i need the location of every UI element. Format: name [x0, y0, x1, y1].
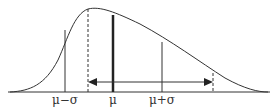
distribution-plot: [0, 0, 274, 112]
label-mu-plus-sigma: μ+σ: [149, 93, 175, 107]
label-mu: μ: [109, 93, 117, 107]
density-curve: [10, 8, 268, 92]
arrow-right-head-icon: [204, 78, 213, 86]
arrow-left-head-icon: [88, 78, 97, 86]
label-mu-minus-sigma: μ−σ: [52, 93, 78, 107]
skewed-distribution-diagram: μ−σ μ μ+σ: [0, 0, 274, 112]
